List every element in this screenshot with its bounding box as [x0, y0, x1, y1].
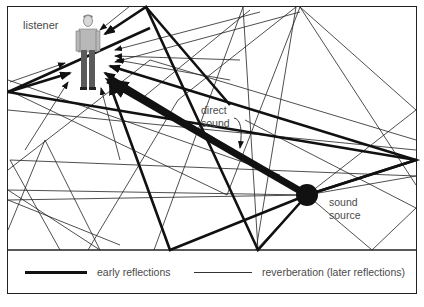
direct-sound-label-line1: direct	[201, 104, 230, 117]
legend-reverberation: reverberation (later reflections)	[194, 266, 405, 278]
legend: early reflections reverberation (later r…	[8, 252, 416, 294]
direct-sound-label-line2: sound	[201, 117, 230, 130]
sound-source-label: sound source	[329, 196, 361, 222]
legend-early-reflections: early reflections	[25, 266, 171, 278]
listener-label: listener	[23, 19, 58, 32]
direct-sound-label: direct sound	[201, 104, 230, 130]
legend-early-label: early reflections	[97, 266, 171, 278]
sound-source-label-line1: sound	[329, 196, 361, 209]
listener-person-icon	[76, 15, 100, 91]
sound-source-icon	[296, 184, 318, 206]
legend-reverb-label: reverberation (later reflections)	[262, 266, 405, 278]
thin-line-swatch	[194, 272, 252, 273]
sound-source-label-line2: source	[329, 209, 361, 222]
thick-line-swatch	[25, 271, 87, 274]
